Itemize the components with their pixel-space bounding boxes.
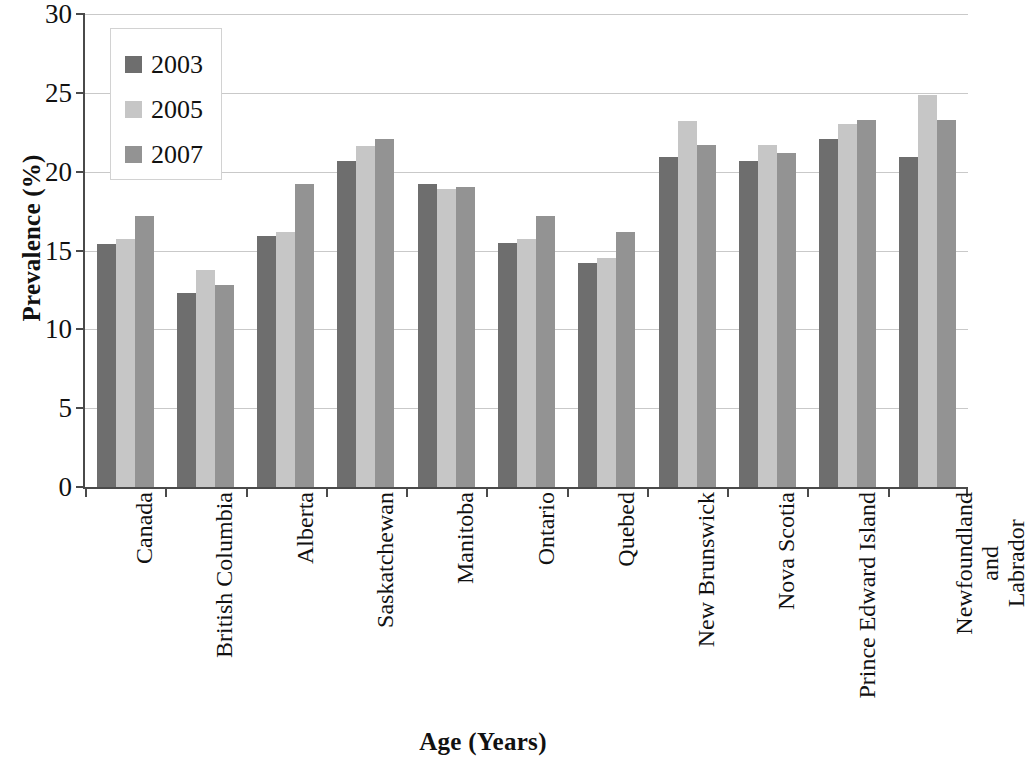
bar-2005 [597,258,616,487]
legend-label: 2003 [151,52,203,78]
bar-2005 [356,146,375,487]
x-axis-label-british-columbia: British Columbia [212,492,238,658]
bar-group [406,14,486,487]
legend-item-2005: 2005 [111,87,221,132]
x-axis-label-line: Labrador [1004,492,1029,635]
x-axis-label-alberta: Alberta [293,492,319,564]
bar-2007 [215,285,234,487]
bar-2003 [257,236,276,487]
bar-2003 [819,139,838,487]
y-axis-tick [76,171,85,173]
bar-2005 [276,232,295,487]
legend-swatch-icon [125,56,142,73]
bar-2007 [135,216,154,487]
plot-area: 200320052007 [83,14,968,489]
x-axis-label-new-brunswick: New Brunswick [694,492,720,647]
bar-2007 [616,232,635,487]
bar-2003 [498,243,517,487]
bar-group [246,14,326,487]
y-axis-tick [76,486,85,488]
bar-2005 [838,124,857,487]
y-axis-tick [76,250,85,252]
x-axis-label-saskatchewan: Saskatchewan [373,492,399,628]
bar-2003 [337,161,356,487]
legend-item-2007: 2007 [111,132,221,177]
x-axis-label-canada: Canada [132,492,158,564]
y-axis-tick [76,328,85,330]
bar-2005 [758,145,777,487]
bar-2005 [196,270,215,487]
legend-label: 2007 [151,142,203,168]
y-axis-tick [76,13,85,15]
bar-2007 [456,187,475,487]
x-axis-title: Age (Years) [0,728,966,756]
y-axis-tick-label: 0 [20,474,72,501]
bar-2003 [659,157,678,487]
bar-group [807,14,887,487]
y-axis-tick-label: 25 [20,79,72,106]
bar-2003 [418,184,437,487]
bar-2003 [739,161,758,487]
y-axis-tick-label: 15 [20,237,72,264]
x-axis-label-ontario: Ontario [534,492,560,565]
bar-group [888,14,968,487]
x-axis-label-prince-edward-island: Prince Edward Island [855,492,881,699]
y-axis-tick-label: 20 [20,158,72,185]
x-axis-label-nova-scotia: Nova Scotia [774,492,800,610]
bar-2005 [517,239,536,487]
bar-2003 [899,157,918,487]
x-axis-label-quebed: Quebed [614,492,640,567]
y-axis-tick [76,407,85,409]
legend: 200320052007 [110,28,222,180]
legend-swatch-icon [125,101,142,118]
bar-2003 [97,244,116,487]
y-axis-tick [76,92,85,94]
bar-2005 [918,95,937,487]
x-axis-label-newfoundland-and-labrador: Newfoundland andLabrador [952,492,1029,635]
x-axis-category-labels: CanadaBritish ColumbiaAlbertaSaskatchewa… [83,492,966,722]
bar-2007 [857,120,876,487]
bar-group [486,14,566,487]
x-axis-label-manitoba: Manitoba [453,492,479,584]
legend-swatch-icon [125,146,142,163]
bar-group [326,14,406,487]
bar-2007 [777,153,796,487]
bar-2003 [578,263,597,487]
bar-2007 [375,139,394,487]
bar-2007 [536,216,555,487]
x-axis-label-line: Newfoundland and [952,492,1004,635]
bar-2007 [697,145,716,487]
y-axis-tick-label: 30 [20,1,72,28]
bar-2005 [678,121,697,487]
bar-group [647,14,727,487]
bar-2005 [116,239,135,487]
bar-2007 [937,120,956,487]
y-axis-tick-label: 10 [20,316,72,343]
bar-2005 [437,189,456,487]
bar-group [567,14,647,487]
y-axis-tick-labels: 302520151050 [20,0,72,500]
bar-group [727,14,807,487]
legend-item-2003: 2003 [111,42,221,87]
legend-label: 2005 [151,97,203,123]
bar-2007 [295,184,314,487]
y-axis-tick-label: 5 [20,395,72,422]
bar-2003 [177,293,196,487]
